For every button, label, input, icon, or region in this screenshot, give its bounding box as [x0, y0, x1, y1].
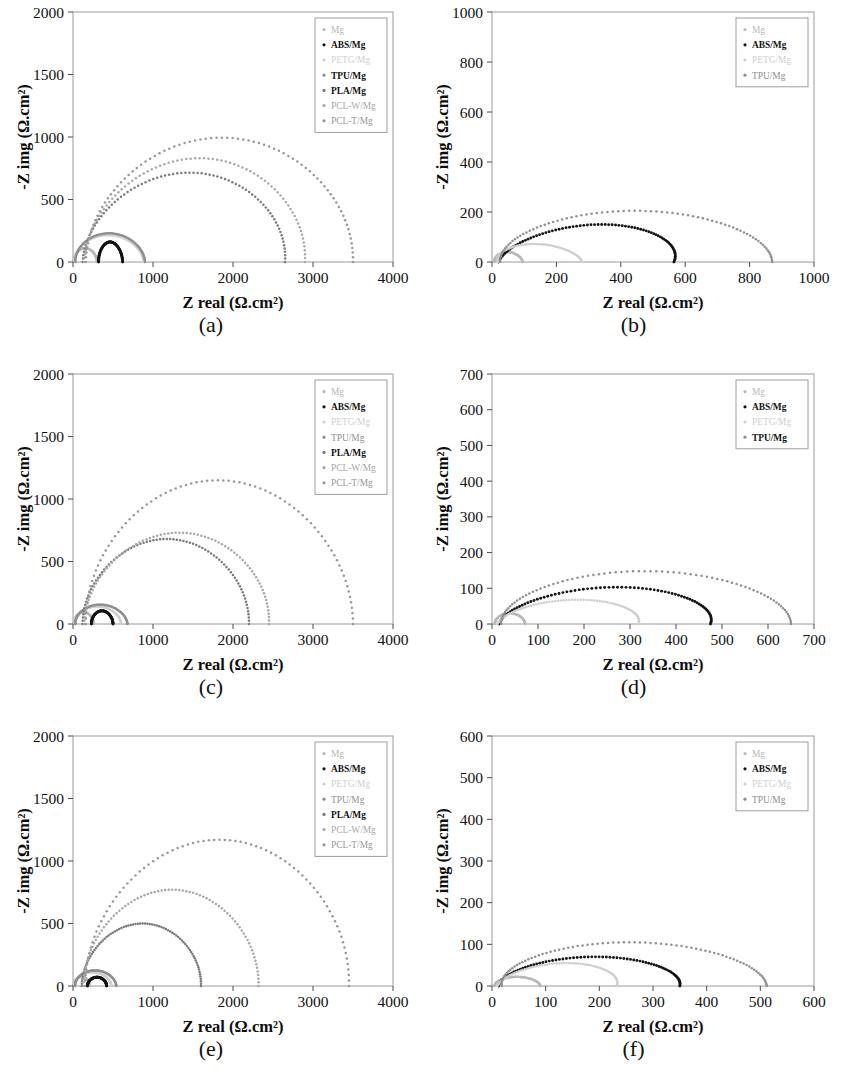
- x-tick-label: 400: [695, 993, 719, 1010]
- x-tick-label: 400: [664, 631, 688, 648]
- y-tick-label: 400: [460, 811, 484, 828]
- x-axis-title: Z real (Ω.cm²): [603, 293, 704, 312]
- data-series-group: [73, 136, 355, 263]
- legend: MgABS/MgPETG/MgTPU/MgPLA/MgPCL-W/MgPCL-T…: [315, 380, 387, 494]
- legend-item-label: Mg: [331, 749, 344, 759]
- legend-item-label: PETG/Mg: [752, 417, 791, 427]
- x-tick-label: 300: [618, 631, 642, 648]
- x-tick-label: 200: [545, 269, 569, 286]
- legend-item-label: PETG/Mg: [331, 55, 370, 65]
- legend-item-label: Mg: [331, 25, 344, 35]
- x-tick-label: 200: [572, 631, 596, 648]
- panel-c-plot: 010002000300040000500100015002000Z real …: [0, 362, 422, 674]
- panel-d-plot: 0100200300400500600700010020030040050060…: [422, 362, 845, 674]
- series-tpu-mg: [499, 210, 774, 264]
- y-axis-title: -Z img (Ω.cm²): [433, 808, 452, 914]
- panel-e-plot: 010002000300040000500100015002000Z real …: [0, 724, 422, 1036]
- panel-a-caption: (a): [0, 312, 422, 338]
- x-axis-title: Z real (Ω.cm²): [183, 655, 284, 674]
- x-tick-label: 0: [488, 269, 496, 286]
- y-tick-label: 400: [460, 154, 484, 171]
- series-petg-mg: [496, 598, 640, 625]
- x-axis-title: Z real (Ω.cm²): [183, 293, 284, 312]
- legend-item-label: PETG/Mg: [331, 779, 370, 789]
- legend-item-label: Mg: [752, 749, 765, 759]
- legend-item-label: ABS/Mg: [331, 402, 366, 412]
- x-tick-label: 0: [488, 993, 496, 1010]
- panel-c: 010002000300040000500100015002000Z real …: [0, 362, 422, 724]
- x-axis: 02004006008001000: [488, 262, 830, 286]
- x-tick-label: 0: [69, 269, 77, 286]
- y-tick-label: 100: [460, 580, 484, 597]
- panel-a: 010002000300040000500100015002000Z real …: [0, 0, 422, 362]
- x-axis: 01000200030004000: [69, 262, 409, 286]
- panel-a-svg: 010002000300040000500100015002000Z real …: [0, 0, 422, 312]
- legend-item-label: ABS/Mg: [331, 764, 366, 774]
- series-abs-mg: [497, 223, 677, 263]
- x-tick-label: 1000: [138, 631, 169, 648]
- x-tick-label: 500: [710, 631, 734, 648]
- x-tick-label: 600: [674, 269, 698, 286]
- panel-b-svg: 0200400600800100002004006008001000Z real…: [422, 0, 845, 312]
- legend-item-label: TPU/Mg: [752, 433, 787, 443]
- x-axis: 01000200030004000: [69, 986, 409, 1010]
- y-axis: 02004006008001000: [452, 4, 492, 271]
- legend-item-label: PETG/Mg: [752, 55, 791, 65]
- y-tick-label: 200: [460, 894, 484, 911]
- y-tick-label: 500: [41, 191, 65, 208]
- y-axis-title: -Z img (Ω.cm²): [14, 84, 33, 190]
- y-tick-label: 200: [460, 204, 484, 221]
- y-tick-label: 1000: [33, 129, 64, 146]
- data-series-group: [72, 839, 350, 988]
- x-tick-label: 1000: [138, 269, 169, 286]
- series-pcl-t-mg: [85, 136, 355, 263]
- y-tick-label: 0: [475, 616, 483, 633]
- y-tick-label: 600: [460, 728, 484, 745]
- panel-c-svg: 010002000300040000500100015002000Z real …: [0, 362, 422, 674]
- x-tick-label: 0: [69, 631, 77, 648]
- x-tick-label: 1000: [138, 993, 169, 1010]
- y-tick-label: 500: [41, 915, 65, 932]
- y-tick-label: 500: [460, 437, 484, 454]
- x-tick-label: 500: [749, 993, 773, 1010]
- y-axis-title: -Z img (Ω.cm²): [14, 446, 33, 552]
- eis-nyquist-figure: 010002000300040000500100015002000Z real …: [0, 0, 845, 1085]
- x-tick-label: 400: [609, 269, 633, 286]
- x-tick-label: 600: [802, 993, 826, 1010]
- panel-b-caption: (b): [422, 312, 845, 338]
- legend-item-label: PLA/Mg: [331, 810, 366, 820]
- legend-item-label: Mg: [752, 387, 765, 397]
- y-axis: 0100200300400500600700: [460, 366, 492, 633]
- legend-item-label: PCL-W/Mg: [331, 825, 376, 835]
- x-tick-label: 4000: [378, 269, 409, 286]
- x-axis-title: Z real (Ω.cm²): [603, 655, 704, 674]
- y-tick-label: 1500: [33, 428, 64, 445]
- y-tick-label: 1000: [33, 491, 64, 508]
- y-tick-label: 1500: [33, 66, 64, 83]
- x-tick-label: 600: [756, 631, 780, 648]
- legend-item-label: TPU/Mg: [331, 71, 366, 81]
- x-tick-label: 0: [488, 631, 496, 648]
- y-tick-label: 0: [56, 616, 64, 633]
- panel-e-svg: 010002000300040000500100015002000Z real …: [0, 724, 422, 1036]
- y-tick-label: 0: [475, 978, 483, 995]
- y-tick-label: 600: [460, 401, 484, 418]
- y-tick-label: 700: [460, 366, 484, 383]
- x-tick-label: 2000: [218, 269, 249, 286]
- legend-item-label: ABS/Mg: [752, 40, 787, 50]
- panel-f-caption: (f): [422, 1036, 845, 1062]
- x-tick-label: 3000: [298, 993, 329, 1010]
- legend-item-label: PCL-T/Mg: [331, 116, 373, 126]
- x-tick-label: 100: [526, 631, 550, 648]
- legend: MgABS/MgPETG/MgTPU/Mg: [736, 380, 808, 449]
- x-tick-label: 2000: [218, 631, 249, 648]
- series-abs-mg: [97, 241, 124, 264]
- panel-c-caption: (c): [0, 674, 422, 700]
- data-series-group: [494, 570, 793, 626]
- legend-item-label: ABS/Mg: [331, 40, 366, 50]
- panel-d-caption: (d): [422, 674, 845, 700]
- legend-item-label: PCL-W/Mg: [331, 101, 376, 111]
- y-tick-label: 200: [460, 544, 484, 561]
- legend-item-label: PETG/Mg: [331, 417, 370, 427]
- data-series-group: [493, 210, 773, 264]
